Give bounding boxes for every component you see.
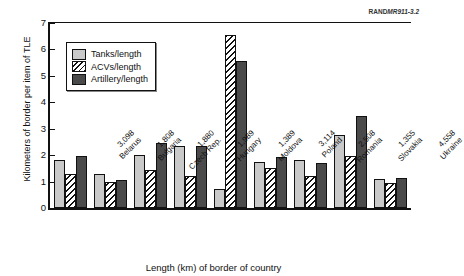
legend-label-acvs: ACVs/length [91, 62, 141, 72]
legend-label-artillery: Artillery/length [91, 74, 148, 84]
source-mark-number: MR911-3.2 [387, 8, 419, 15]
legend-item-acvs: ACVs/length [72, 61, 148, 72]
source-mark-prefix: RAND [369, 8, 388, 15]
legend-label-tanks: Tanks/length [91, 49, 142, 59]
chart-legend: Tanks/length ACVs/length Artillery/lengt… [66, 42, 156, 91]
y-tick-label-2: 2 [24, 150, 46, 160]
legend-swatch-tanks-icon [72, 49, 86, 60]
y-tick-label-1: 1 [24, 177, 46, 187]
y-tick-label-0: 0 [24, 203, 46, 213]
y-axis-title: Kilometers of border per item of TLE [22, 14, 32, 204]
y-tick-label-6: 6 [24, 45, 46, 55]
legend-item-artillery: Artillery/length [72, 74, 148, 85]
bar-tanks-belarus [54, 160, 65, 208]
bar-tanks-moldova [214, 189, 225, 208]
legend-swatch-artillery-icon [72, 74, 86, 85]
y-tick-label-3: 3 [24, 124, 46, 134]
bar-acvs-moldova [225, 35, 236, 208]
y-tick-label-7: 7 [24, 18, 46, 28]
y-tick-label-4: 4 [24, 98, 46, 108]
y-tick-label-5: 5 [24, 71, 46, 81]
source-mark: RANDMR911-3.2 [369, 8, 419, 15]
legend-item-tanks: Tanks/length [72, 49, 148, 60]
legend-swatch-acvs-icon [72, 61, 86, 72]
x-axis-title: Length (km) of border of country [0, 262, 427, 273]
